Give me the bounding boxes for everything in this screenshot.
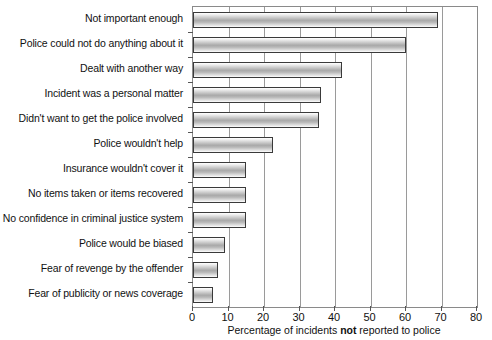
plot-inner	[193, 7, 477, 307]
bar	[193, 37, 406, 53]
category-label: Police would be biased	[0, 231, 188, 256]
category-label: Police could not do anything about it	[0, 31, 188, 56]
x-axis-tick-label: 10	[221, 311, 233, 323]
bar-row	[193, 282, 477, 307]
bar-row	[193, 82, 477, 107]
category-label: No confidence in criminal justice system	[0, 206, 188, 231]
bar	[193, 187, 246, 203]
x-axis-title-suffix: reported to police	[356, 324, 440, 336]
bar-row	[193, 107, 477, 132]
category-label: No items taken or items recovered	[0, 181, 188, 206]
bar-row	[193, 7, 477, 32]
bar-row	[193, 207, 477, 232]
bar	[193, 87, 321, 103]
bar	[193, 237, 225, 253]
bar	[193, 137, 273, 153]
category-label: Incident was a personal matter	[0, 81, 188, 106]
x-axis-tick-label: 70	[434, 311, 446, 323]
bar	[193, 62, 342, 78]
bar	[193, 287, 213, 303]
x-axis-title: Percentage of incidents not reported to …	[192, 324, 476, 336]
category-label: Didn't want to get the police involved	[0, 106, 188, 131]
bar-series	[193, 7, 477, 307]
x-axis-tick-label: 50	[363, 311, 375, 323]
x-axis-title-prefix: Percentage of incidents	[227, 324, 340, 336]
bar	[193, 112, 319, 128]
bar	[193, 12, 438, 28]
category-label: Not important enough	[0, 6, 188, 31]
category-label: Dealt with another way	[0, 56, 188, 81]
x-axis-tick-label: 20	[257, 311, 269, 323]
x-axis-tick-label: 0	[189, 311, 195, 323]
bar	[193, 262, 218, 278]
bar	[193, 162, 246, 178]
x-axis-tick-label: 30	[292, 311, 304, 323]
x-axis-tick-label: 40	[328, 311, 340, 323]
bar-row	[193, 157, 477, 182]
category-label: Fear of publicity or news coverage	[0, 281, 188, 306]
category-axis-labels: Not important enough Police could not do…	[0, 6, 188, 306]
bar-row	[193, 232, 477, 257]
bar-row	[193, 57, 477, 82]
category-label: Police wouldn't help	[0, 131, 188, 156]
bar-row	[193, 132, 477, 157]
bar-row	[193, 32, 477, 57]
plot-area	[192, 6, 478, 308]
bar-row	[193, 257, 477, 282]
bar-row	[193, 182, 477, 207]
x-axis-tick-label: 60	[399, 311, 411, 323]
category-label: Insurance wouldn't cover it	[0, 156, 188, 181]
category-label: Fear of revenge by the offender	[0, 256, 188, 281]
bar	[193, 212, 246, 228]
x-axis-title-emphasis: not	[340, 324, 356, 336]
x-axis-tick-label: 80	[470, 311, 482, 323]
bar-chart: Not important enough Police could not do…	[0, 0, 492, 340]
